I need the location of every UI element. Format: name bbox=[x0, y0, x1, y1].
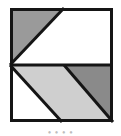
geometric-figure bbox=[0, 0, 121, 136]
clipped-caption: • • • • bbox=[0, 127, 121, 136]
figure-container: • • • • bbox=[0, 0, 121, 136]
